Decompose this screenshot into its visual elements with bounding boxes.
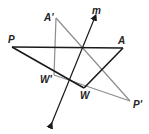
label-w-prime: W': [40, 74, 52, 85]
reflection-diagram: P A W A' W' P' m: [0, 0, 149, 134]
label-a: A: [117, 35, 125, 46]
original-triangle: [12, 47, 123, 88]
segment-a-prime-w-prime: [54, 18, 56, 75]
label-a-prime: A': [43, 12, 54, 23]
label-p: P: [8, 34, 15, 45]
segment-a-w: [84, 48, 123, 88]
segment-p-a: [12, 47, 123, 48]
label-p-prime: P': [133, 99, 143, 110]
label-m: m: [92, 5, 101, 16]
label-w: W: [80, 90, 91, 101]
mirror-line-m: [51, 17, 95, 125]
